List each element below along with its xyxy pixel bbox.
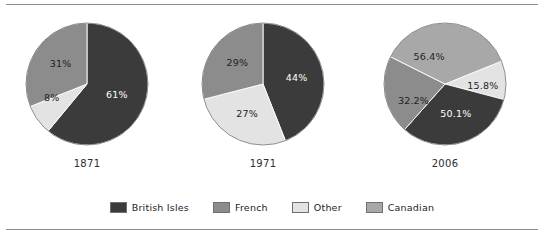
pie-chart-1971: 44%27%29%1971 [188, 16, 338, 181]
pie-caption-1971: 1971 [188, 158, 338, 169]
legend-label: Canadian [388, 202, 434, 213]
legend-item-other: Other [292, 202, 342, 213]
slice-value-label: 15.8% [467, 80, 498, 91]
pie-chart-figure: 61%8%31%187144%27%29%197115.8%50.1%32.2%… [0, 0, 544, 244]
legend-label: French [235, 202, 268, 213]
chart-legend: British IslesFrenchOtherCanadian [0, 198, 544, 216]
slice-value-label: 8% [44, 92, 59, 103]
pie-caption-1871: 1871 [12, 158, 162, 169]
legend-item-british-isles: British Isles [110, 202, 189, 213]
slice-value-label: 61% [106, 89, 128, 100]
legend-item-canadian: Canadian [366, 202, 434, 213]
slice-value-label: 31% [50, 58, 72, 69]
legend-swatch-icon [110, 202, 127, 213]
legend-label: British Isles [132, 202, 189, 213]
pie-chart-1871: 61%8%31%1871 [12, 16, 162, 181]
slice-value-label: 32.2% [398, 95, 429, 106]
legend-label: Other [314, 202, 342, 213]
slice-value-label: 56.4% [414, 51, 445, 62]
legend-item-french: French [213, 202, 268, 213]
bottom-divider-rule [6, 229, 538, 230]
pie-graphic-1871: 61%8%31% [12, 16, 162, 156]
pie-graphic-1971: 44%27%29% [188, 16, 338, 156]
top-divider-rule [6, 4, 538, 5]
slice-value-label: 50.1% [440, 108, 471, 119]
slice-value-label: 44% [286, 72, 308, 83]
pie-chart-2006: 15.8%50.1%32.2%56.4%2006 [370, 16, 520, 181]
legend-swatch-icon [366, 202, 383, 213]
pie-caption-2006: 2006 [370, 158, 520, 169]
legend-swatch-icon [213, 202, 230, 213]
slice-value-label: 29% [226, 57, 248, 68]
pie-graphic-2006: 15.8%50.1%32.2%56.4% [370, 16, 520, 156]
legend-swatch-icon [292, 202, 309, 213]
slice-value-label: 27% [236, 108, 258, 119]
pie-charts-row: 61%8%31%187144%27%29%197115.8%50.1%32.2%… [0, 16, 544, 176]
